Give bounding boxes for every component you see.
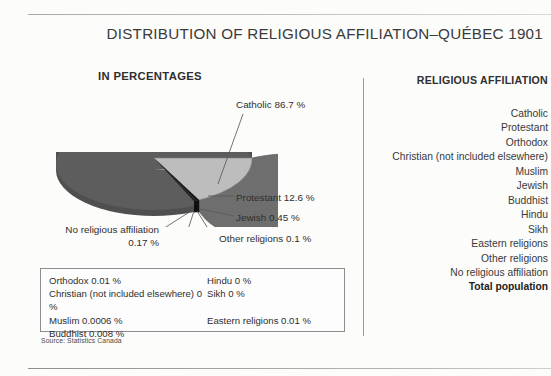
list-item: Jewish (370, 179, 548, 193)
detail-cell-left: Muslim 0.0006 % (49, 314, 207, 327)
list-item: Hindu (370, 208, 548, 222)
pie-chart-graphic (48, 92, 278, 227)
callout-no-religious-affiliation: No religious affiliation 0.17 % (63, 224, 159, 249)
panel-divider (363, 78, 364, 336)
callout-catholic: Catholic 86.7 % (236, 99, 305, 112)
detail-cell-left: Orthodox 0.01 % (49, 274, 207, 287)
detail-cell-right (207, 327, 338, 340)
source-note: Source: Statistics Canada (41, 337, 122, 344)
affiliation-list: Catholic Protestant Orthodox Christian (… (370, 107, 548, 295)
pie-sliver-side-wall (194, 200, 199, 213)
callout-jewish: Jewish 0.45 % (236, 212, 300, 225)
list-item: Eastern religions (370, 237, 548, 251)
detail-cell-right: Hindu 0 % (207, 274, 338, 287)
list-item-total: Total population (370, 280, 548, 294)
list-item: Buddhist (370, 194, 548, 208)
chart-subheading: IN PERCENTAGES (0, 70, 300, 82)
detail-cell-right: Eastern religions 0.01 % (207, 314, 338, 327)
detail-row: Orthodox 0.01 % Hindu 0 % (49, 274, 338, 287)
callout-protestant: Protestant 12.6 % (236, 192, 315, 205)
callout-other-religions: Other religions 0.1 % (219, 233, 311, 246)
affiliation-panel-heading: RELIGIOUS AFFILIATION (417, 74, 548, 86)
list-item: Orthodox (370, 136, 548, 150)
list-item: Sikh (370, 223, 548, 237)
detail-row: Christian (not included elsewhere) 0 % S… (49, 287, 338, 313)
list-item: Catholic (370, 107, 548, 121)
list-item: No religious affiliation (370, 266, 548, 280)
affiliation-panel: RELIGIOUS AFFILIATION Catholic Protestan… (370, 0, 551, 376)
chart-panel: IN PERCENTAGES (0, 0, 363, 376)
list-item: Muslim (370, 165, 548, 179)
list-item: Other religions (370, 252, 548, 266)
detail-row: Muslim 0.0006 % Eastern religions 0.01 % (49, 314, 338, 327)
bottom-divider-rule (28, 368, 551, 369)
list-item: Christian (not included elsewhere) (370, 150, 548, 164)
detail-values-box: Orthodox 0.01 % Hindu 0 % Christian (not… (40, 268, 345, 332)
chart-page: DISTRIBUTION OF RELIGIOUS AFFILIATION–QU… (0, 0, 551, 376)
list-item: Protestant (370, 121, 548, 135)
detail-cell-left: Christian (not included elsewhere) 0 % (49, 287, 207, 313)
detail-cell-right: Sikh 0 % (207, 287, 338, 313)
